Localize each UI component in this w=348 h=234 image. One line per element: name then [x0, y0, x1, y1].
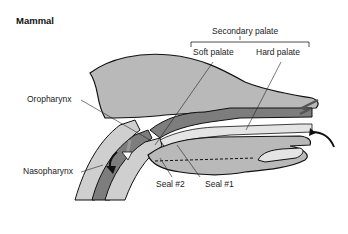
label-soft-palate: Soft palate [193, 47, 234, 57]
label-seal-1: Seal #1 [205, 179, 234, 189]
label-oropharynx: Oropharynx [27, 94, 71, 104]
label-secondary-palate: Secondary palate [212, 26, 278, 36]
mammal-airway-diagram [0, 0, 348, 234]
food-arrow-mouth [312, 132, 334, 147]
label-hard-palate: Hard palate [256, 47, 300, 57]
pharynx-tubes [75, 120, 162, 200]
label-seal-2: Seal #2 [156, 179, 185, 189]
label-nasopharynx: Nasopharynx [23, 166, 73, 176]
